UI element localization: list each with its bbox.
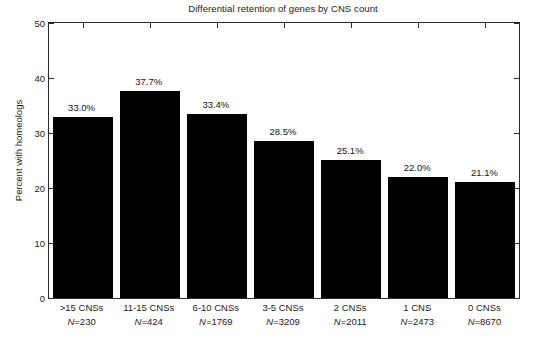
y-axis-tick-label: 40 (34, 73, 45, 84)
category-name: >15 CNSs (60, 302, 104, 313)
bar-value-label: 33.4% (172, 99, 259, 110)
category-count-value: 424 (147, 316, 163, 327)
y-axis-label: Percent with homeologs (13, 71, 24, 231)
category-name: 11-15 CNSs (123, 302, 174, 313)
y-axis-tick: 0 (49, 298, 54, 299)
category-name: 2 CNSs (334, 302, 367, 313)
category-count-value: 2473 (413, 316, 434, 327)
y-axis-tick-mirror (514, 78, 519, 79)
bar (455, 182, 515, 298)
category-count-value: 8670 (480, 316, 501, 327)
bar-value-label: 37.7% (105, 76, 192, 87)
y-axis-tick: 40 (49, 78, 54, 79)
x-axis-category-label: 0 CNSsN=8670 (439, 301, 530, 328)
y-axis-tick-mirror (514, 23, 519, 24)
x-axis-tick (485, 23, 486, 28)
category-count: N=8670 (439, 315, 530, 328)
bar-value-label: 25.1% (307, 145, 394, 156)
bar-value-label: 33.0% (38, 102, 125, 113)
category-name: 0 CNSs (468, 302, 501, 313)
x-axis-tick (351, 23, 352, 28)
bar (254, 141, 314, 298)
bar (321, 160, 381, 298)
y-axis-tick-label: 30 (34, 128, 45, 139)
category-name: 3-5 CNSs (262, 302, 303, 313)
category-count-value: 2011 (346, 316, 366, 327)
y-axis-tick-mirror (514, 133, 519, 134)
bar (120, 91, 180, 298)
plot-area: 01020304050 (48, 22, 520, 299)
x-axis-tick (83, 23, 84, 28)
bar (187, 114, 247, 298)
category-count-value: 230 (80, 316, 96, 327)
y-axis-tick: 50 (49, 23, 54, 24)
plot-inner: 01020304050 (49, 23, 519, 298)
y-axis-tick-label: 20 (34, 183, 45, 194)
y-axis-tick-label: 10 (34, 238, 45, 249)
category-name: 6-10 CNSs (193, 302, 239, 313)
y-axis-tick-label: 50 (34, 18, 45, 29)
category-count-value: 3209 (279, 316, 300, 327)
x-axis-tick (284, 23, 285, 28)
x-axis-tick (217, 23, 218, 28)
x-axis-tick (150, 23, 151, 28)
category-name: 1 CNS (403, 302, 431, 313)
chart-figure: Differential retention of genes by CNS c… (0, 0, 533, 342)
bar (388, 177, 448, 298)
bar-value-label: 21.1% (441, 167, 528, 178)
y-axis-tick-mirror (514, 298, 519, 299)
x-axis-tick (418, 23, 419, 28)
bar (53, 117, 113, 299)
chart-title: Differential retention of genes by CNS c… (48, 3, 518, 15)
bar-value-label: 28.5% (239, 126, 326, 137)
category-count-value: 1769 (211, 316, 232, 327)
